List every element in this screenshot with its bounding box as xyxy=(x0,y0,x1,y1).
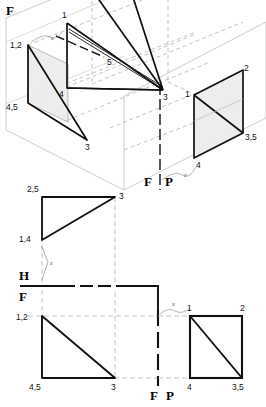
front-view-group: 1,2 4,5 3 xyxy=(16,290,158,392)
profile-dimension-bracket xyxy=(160,308,190,314)
dimension-x-top-view: x xyxy=(49,260,53,266)
front-view-triangle xyxy=(42,316,115,378)
label-1-right: 1 xyxy=(185,89,190,99)
label-3-top: 3 xyxy=(119,191,124,201)
dimension-x-lower: x xyxy=(183,172,187,178)
profile-view-diagonal xyxy=(190,316,242,378)
label-3-front: 3 xyxy=(111,382,116,392)
plane-label-p-bottom: P xyxy=(166,388,174,403)
plane-label-h: H xyxy=(19,268,29,283)
label-1-2-front: 1,2 xyxy=(16,312,28,322)
fp-divider-group: F P xyxy=(150,310,174,403)
top-view-projectors xyxy=(42,197,115,286)
left-face-shape xyxy=(28,45,87,140)
label-4-5-front: 4,5 xyxy=(29,382,41,392)
label-3-center: 3 xyxy=(163,92,168,102)
label-2-5-top: 2,5 xyxy=(27,184,39,194)
label-1-4-top: 1,4 xyxy=(19,234,31,244)
top-view-dimension-bracket xyxy=(42,246,48,280)
label-1-profile: 1 xyxy=(187,303,192,313)
label-5-mid: 5 xyxy=(107,57,112,67)
label-4-mid: 4 xyxy=(59,89,64,99)
dimension-x-profile: x xyxy=(171,301,175,307)
plane-label-f-pictorial: F xyxy=(144,174,152,189)
fold-line-group: H F xyxy=(19,268,158,310)
inclined-plane-figure xyxy=(67,0,163,90)
profile-view-construction xyxy=(158,316,190,378)
label-4-profile: 4 xyxy=(187,382,192,392)
plane-label-f-bottom: F xyxy=(150,388,158,403)
profile-view-group: 1 2 4 3,5 x xyxy=(158,301,245,392)
label-1-2-left: 1,2 xyxy=(10,40,22,50)
top-view-triangle xyxy=(42,197,115,240)
plane-label-p-pictorial: P xyxy=(165,174,173,189)
label-4-right: 4 xyxy=(196,160,201,170)
front-view-construction xyxy=(28,290,158,378)
projection-plate: 1,2 4,5 3 4 5 1 3 1 2 3,5 4 x x F F P xyxy=(0,0,266,407)
top-view-group: 2,5 3 1,4 x xyxy=(19,184,124,286)
label-2-profile: 2 xyxy=(240,303,245,313)
label-3-5-right: 3,5 xyxy=(245,132,257,142)
axonometric-group: 1,2 4,5 3 4 5 1 3 1 2 3,5 4 x x F F P xyxy=(6,0,266,190)
label-3-left: 3 xyxy=(85,142,90,152)
plane-label-f-fold: F xyxy=(19,289,27,304)
fold-line-riser xyxy=(128,286,158,310)
dimension-x-upper: x xyxy=(50,35,54,41)
right-face-shape xyxy=(194,70,243,158)
plane-label-f-top: F xyxy=(6,3,14,18)
label-4-5-left: 4,5 xyxy=(6,102,18,112)
drawing-canvas: 1,2 4,5 3 4 5 1 3 1 2 3,5 4 x x F F P xyxy=(0,0,266,407)
label-2-right: 2 xyxy=(244,63,249,73)
label-1-top: 1 xyxy=(62,10,67,20)
label-3-5-profile: 3,5 xyxy=(232,382,244,392)
